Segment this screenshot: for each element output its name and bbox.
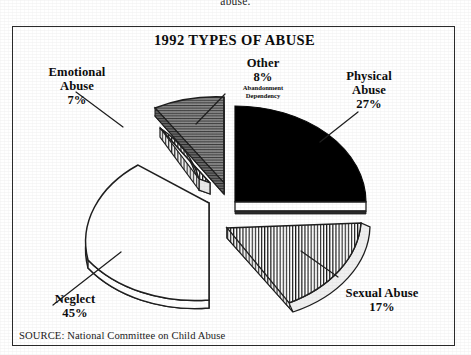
slice-label-neglect-pct: 45% [29,306,121,320]
pie-slice-neglect[interactable] [86,165,209,309]
figure-container: 1992 TYPES OF ABUSE [12,26,455,346]
leader-line-physical-abuse [320,112,358,142]
slice-label-physical-abuse-line1: Physical [346,69,392,83]
slice-label-emotional-abuse: Emotional Abuse 7% [23,65,131,107]
slice-label-neglect-name: Neglect [55,292,96,306]
slice-note-other-line2: Dependency [208,92,318,100]
slice-label-other: Other 8% Abandonment Dependency [208,56,318,100]
chart-source-note: SOURCE: National Committee on Child Abus… [19,330,225,341]
slice-note-other-line1: Abandonment [208,84,318,92]
slice-label-emotional-abuse-pct: 7% [23,93,131,107]
slice-label-physical-abuse: Physical Abuse 27% [315,69,423,111]
slice-label-other-name: Other [247,56,280,70]
slice-label-sexual-abuse-pct: 17% [317,300,447,314]
slice-label-sexual-abuse-name: Sexual Abuse [346,286,419,300]
slice-label-physical-abuse-line2: Abuse [315,83,423,97]
slice-label-physical-abuse-pct: 27% [315,97,423,111]
slice-label-emotional-abuse-line2: Abuse [23,79,131,93]
slice-label-sexual-abuse: Sexual Abuse 17% [317,286,447,314]
page-body-text-fragment: abuse. [0,0,471,7]
pie-slice-physical-abuse[interactable] [235,106,366,214]
slice-label-other-pct: 8% [208,70,318,84]
slice-label-emotional-abuse-line1: Emotional [49,65,106,79]
slice-label-neglect: Neglect 45% [29,292,121,320]
